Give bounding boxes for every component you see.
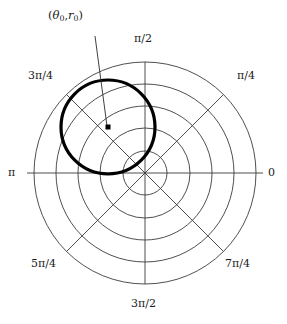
polar-grid-canvas — [0, 0, 287, 324]
polar-figure: 0 π/4 π/2 3π/4 π 5π/4 3π/2 7π/4 (θ0,r0) — [0, 0, 287, 324]
angle-label-pi: π — [8, 167, 15, 178]
marked-point-label: (θ0,r0) — [48, 10, 83, 23]
angle-label-5pi-over-4: 5π/4 — [31, 258, 56, 269]
angle-label-pi-over-2: π/2 — [134, 33, 152, 44]
angle-label-3pi-over-2: 3π/2 — [131, 298, 156, 309]
paren-close: ) — [79, 8, 84, 22]
marked-point-dot — [106, 125, 111, 130]
angle-label-7pi-over-4: 7π/4 — [225, 258, 250, 269]
grid-spokes — [27, 62, 263, 284]
angle-label-pi-over-4: π/4 — [237, 70, 255, 81]
angle-label-3pi-over-4: 3π/4 — [28, 70, 53, 81]
angle-label-0: 0 — [268, 167, 275, 178]
